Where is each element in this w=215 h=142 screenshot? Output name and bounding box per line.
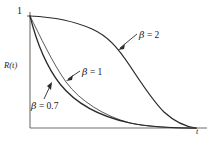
beta-value-1: 1 <box>98 67 103 77</box>
y-axis-label: R(t) <box>4 61 17 70</box>
beta-equals-0-7: = <box>37 101 47 111</box>
plot-canvas <box>0 0 215 142</box>
curve-label-beta-0-7: β = 0.7 <box>31 101 58 112</box>
beta-equals-1: = <box>88 67 98 77</box>
leader-beta-2 <box>120 34 137 48</box>
y-tick-label-1: 1 <box>17 6 22 16</box>
beta-value-2: 2 <box>155 30 160 40</box>
beta-equals-2: = <box>145 30 155 40</box>
curve-label-beta-1: β = 1 <box>82 67 102 78</box>
curve-label-beta-2: β = 2 <box>139 30 159 41</box>
x-axis-label: t <box>196 128 198 136</box>
weibull-reliability-figure: 1 R(t) t β = 2 β = 1 β = 0.7 <box>0 0 215 142</box>
beta-value-0-7: 0.7 <box>47 101 59 111</box>
arrowhead-beta-0-7 <box>47 82 52 90</box>
